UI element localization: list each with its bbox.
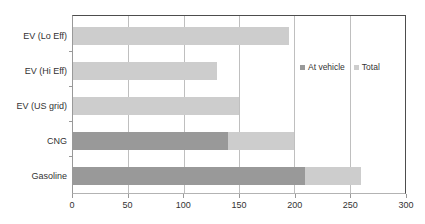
x-axis-label-200: 200: [280, 200, 310, 210]
y-axis-label-cng: CNG: [0, 136, 67, 146]
x-axis-tick-300: [406, 194, 407, 198]
x-axis-tick-150: [239, 194, 240, 198]
y-axis-label-ev-hi-eff: EV (Hi Eff): [0, 66, 67, 76]
legend-item-at-vehicle: At vehicle: [300, 62, 345, 72]
x-axis-tick-0: [72, 194, 73, 198]
legend-label-total: Total: [362, 62, 380, 72]
bar-total-ev-hi-eff: [73, 62, 217, 80]
bar-total-ev-lo-eff: [73, 27, 289, 45]
bar-row-ev-lo-eff: [73, 27, 405, 45]
y-axis-label-ev-us-grid: EV (US grid): [0, 101, 67, 111]
x-axis-label-50: 50: [113, 200, 143, 210]
x-axis-tick-200: [295, 194, 296, 198]
legend-item-total: Total: [354, 62, 380, 72]
bar-row-gasoline: [73, 167, 405, 185]
x-axis-tick-50: [128, 194, 129, 198]
y-axis-label-ev-lo-eff: EV (Lo Eff): [0, 31, 67, 41]
bar-at-vehicle-cng: [73, 132, 228, 150]
x-axis-label-150: 150: [224, 200, 254, 210]
legend-swatch-total: [354, 65, 359, 70]
bar-at-vehicle-gasoline: [73, 167, 305, 185]
y-axis-label-gasoline: Gasoline: [0, 171, 67, 181]
x-axis-label-250: 250: [335, 200, 365, 210]
legend-swatch-at-vehicle: [300, 65, 305, 70]
bar-total-ev-us-grid: [73, 97, 239, 115]
x-axis-label-100: 100: [168, 200, 198, 210]
x-axis-tick-100: [183, 194, 184, 198]
bar-row-ev-us-grid: [73, 97, 405, 115]
x-axis-label-300: 300: [391, 200, 421, 210]
x-axis-tick-250: [350, 194, 351, 198]
plot-area: [72, 15, 406, 194]
legend: At vehicle Total: [300, 62, 380, 72]
x-axis-label-0: 0: [57, 200, 87, 210]
bars-layer: [73, 16, 405, 193]
legend-label-at-vehicle: At vehicle: [308, 62, 345, 72]
bar-row-cng: [73, 132, 405, 150]
bar-chart: EV (Lo Eff) EV (Hi Eff) EV (US grid) CNG…: [0, 0, 425, 224]
